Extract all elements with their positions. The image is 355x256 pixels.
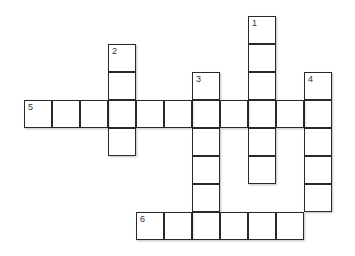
grid-cell[interactable] [192, 128, 220, 156]
grid-cell[interactable] [192, 156, 220, 184]
clue-number: 3 [196, 74, 201, 84]
grid-cell[interactable] [52, 100, 80, 128]
grid-cell[interactable] [304, 100, 332, 128]
grid-cell[interactable] [220, 212, 248, 240]
grid-cell[interactable]: 6 [136, 212, 164, 240]
grid-cell[interactable] [164, 100, 192, 128]
grid-cell[interactable]: 3 [192, 72, 220, 100]
grid-cell[interactable] [276, 100, 304, 128]
grid-cell[interactable]: 2 [108, 44, 136, 72]
grid-cell[interactable] [304, 184, 332, 212]
grid-cell[interactable] [136, 100, 164, 128]
grid-cell[interactable] [248, 44, 276, 72]
grid-cell[interactable] [304, 128, 332, 156]
clue-number: 6 [140, 214, 145, 224]
grid-cell[interactable]: 4 [304, 72, 332, 100]
grid-cell[interactable] [108, 128, 136, 156]
grid-cell[interactable] [108, 100, 136, 128]
clue-number: 4 [308, 74, 313, 84]
grid-cell[interactable] [80, 100, 108, 128]
grid-cell[interactable] [108, 72, 136, 100]
grid-cell[interactable] [164, 212, 192, 240]
grid-cell[interactable] [304, 156, 332, 184]
crossword-grid: 123456 [0, 0, 355, 256]
grid-cell[interactable] [192, 100, 220, 128]
grid-cell[interactable] [248, 100, 276, 128]
grid-cell[interactable]: 1 [248, 16, 276, 44]
grid-cell[interactable] [220, 100, 248, 128]
grid-cell[interactable]: 5 [24, 100, 52, 128]
grid-cell[interactable] [276, 212, 304, 240]
clue-number: 1 [252, 18, 257, 28]
grid-cell[interactable] [248, 212, 276, 240]
grid-cell[interactable] [192, 212, 220, 240]
grid-cell[interactable] [248, 156, 276, 184]
grid-cell[interactable] [248, 72, 276, 100]
clue-number: 2 [112, 46, 117, 56]
clue-number: 5 [28, 102, 33, 112]
grid-cell[interactable] [248, 128, 276, 156]
grid-cell[interactable] [192, 184, 220, 212]
